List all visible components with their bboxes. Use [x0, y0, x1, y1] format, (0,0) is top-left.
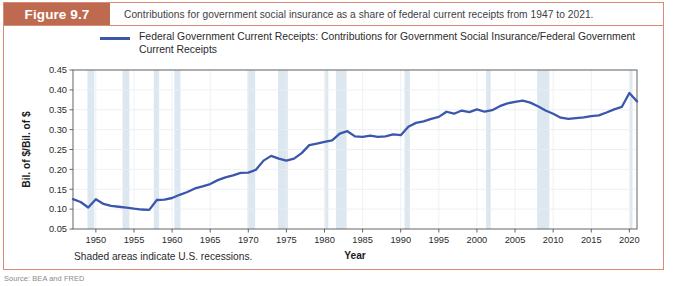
x-axis-ticks-group: [96, 229, 630, 233]
recession-footnote: Shaded areas indicate U.S. recessions.: [74, 251, 252, 262]
y-axis-title: Bil. of $/Bil. of $: [21, 111, 32, 188]
y-tick-label: 0.20: [49, 165, 67, 175]
x-tick-label: 1955: [124, 235, 145, 245]
recession-band: [278, 70, 288, 229]
y-axis-ticks-group: [70, 70, 74, 229]
x-tick-label: 1980: [314, 235, 335, 245]
x-gridlines-group: [96, 70, 630, 229]
x-tick-label: 1970: [238, 235, 259, 245]
recession-band: [405, 70, 410, 229]
y-tick-label: 0.15: [49, 185, 67, 195]
data-series-group: [73, 93, 637, 210]
x-axis-title: Year: [344, 250, 366, 261]
y-tick-label: 0.10: [49, 204, 67, 214]
recession-band: [87, 70, 94, 229]
x-tick-label: 1960: [162, 235, 183, 245]
y-gridlines-group: [73, 70, 637, 209]
source-note: Source: BEA and FRED: [4, 274, 84, 283]
recession-band: [537, 70, 549, 229]
x-tick-label: 2005: [505, 235, 526, 245]
legend-color-swatch: [100, 37, 130, 40]
y-tick-label: 0.30: [49, 125, 67, 135]
recession-band: [630, 70, 632, 229]
x-axis-tick-labels-group: 1950195519601965197019751980198519901995…: [86, 235, 640, 245]
y-axis-tick-labels-group: 0.050.100.150.200.250.300.350.400.45: [49, 65, 67, 234]
recession-band: [336, 70, 347, 229]
x-tick-label: 2010: [543, 235, 564, 245]
plot-frame: [73, 70, 637, 229]
y-tick-label: 0.05: [49, 224, 67, 234]
recession-band: [123, 70, 130, 229]
legend-series-label: Federal Government Current Receipts: Con…: [139, 31, 639, 56]
y-tick-label: 0.35: [49, 105, 67, 115]
y-tick-label: 0.25: [49, 145, 67, 155]
x-tick-label: 2015: [581, 235, 602, 245]
x-tick-label: 1985: [352, 235, 373, 245]
recession-bands-group: [87, 70, 632, 229]
y-tick-label: 0.40: [49, 85, 67, 95]
recession-band: [325, 70, 328, 229]
x-tick-label: 1950: [86, 235, 107, 245]
recession-band: [248, 70, 256, 229]
figure-header: Figure 9.7 Contributions for government …: [4, 3, 663, 26]
data-line: [73, 93, 637, 210]
x-tick-label: 1965: [200, 235, 221, 245]
plot-border: [73, 70, 637, 229]
figure-card: Figure 9.7 Contributions for government …: [3, 2, 664, 270]
x-tick-label: 2000: [467, 235, 488, 245]
recession-band: [154, 70, 159, 229]
recession-band: [486, 70, 491, 229]
x-tick-label: 2020: [619, 235, 640, 245]
y-tick-label: 0.45: [49, 65, 67, 75]
chart-legend: Federal Government Current Receipts: Con…: [100, 31, 640, 56]
x-tick-label: 1995: [428, 235, 449, 245]
x-tick-label: 1990: [390, 235, 411, 245]
x-tick-label: 1975: [276, 235, 297, 245]
figure-number-badge: Figure 9.7: [4, 3, 110, 25]
recession-band: [174, 70, 180, 229]
figure-caption: Contributions for government social insu…: [110, 3, 663, 25]
